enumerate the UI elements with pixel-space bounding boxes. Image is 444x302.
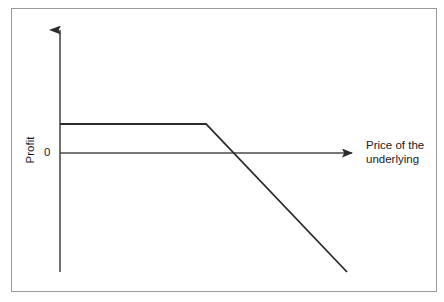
x-axis-title-line-2: underlying bbox=[366, 153, 424, 167]
x-axis-title: Price of theunderlying bbox=[366, 139, 424, 166]
y-axis-zero-tick-label: 0 bbox=[44, 146, 50, 160]
y-axis-title: Profit bbox=[24, 137, 38, 164]
x-axis-title-line-1: Price of the bbox=[366, 139, 424, 151]
payoff-curve bbox=[60, 124, 347, 272]
payoff-diagram-figure: Profit 0 Price of theunderlying bbox=[0, 0, 444, 302]
